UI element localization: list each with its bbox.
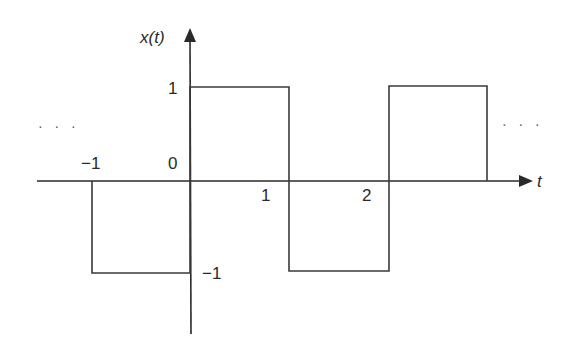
- tick-label-neg1: −1: [81, 154, 100, 173]
- y-axis-arrow-icon: [184, 28, 196, 42]
- t-axis-arrow-icon: [519, 175, 533, 187]
- square-wave-diagram: x(t) t −1 0 1 2 1 −1 · · · · · ·: [0, 0, 568, 342]
- square-wave: [92, 86, 487, 273]
- ytick-label-neg1: −1: [202, 264, 221, 283]
- x-axis-label: t: [537, 172, 543, 191]
- tick-label-1: 1: [261, 186, 270, 205]
- tick-label-0: 0: [168, 154, 177, 173]
- continuation-right: · · ·: [502, 116, 544, 132]
- y-axis-label: x(t): [139, 28, 165, 47]
- continuation-left: · · ·: [38, 118, 80, 134]
- ytick-label-1: 1: [168, 79, 177, 98]
- tick-label-2: 2: [362, 186, 371, 205]
